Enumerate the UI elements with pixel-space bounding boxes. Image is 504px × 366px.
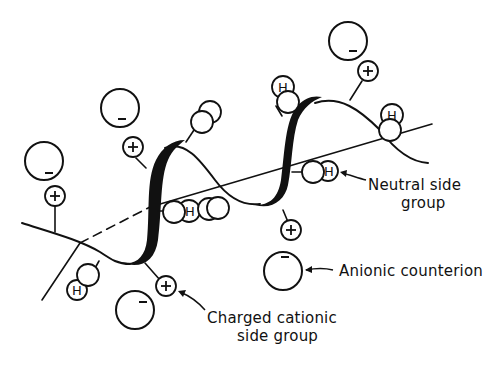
anion-1 (25, 142, 63, 180)
neutral-7: H (302, 161, 338, 183)
cationic-label-line1: Charged cationic (207, 309, 337, 327)
neutral-4: H (379, 104, 403, 141)
anion-4 (116, 291, 154, 329)
neutral-6 (198, 197, 229, 220)
svg-text:H: H (185, 204, 195, 219)
svg-text:H: H (72, 283, 82, 298)
anion-5 (264, 252, 302, 290)
anionic-label-line1: Anionic counterion (339, 262, 483, 280)
cation-2 (123, 137, 143, 157)
cation-5 (281, 220, 301, 240)
cation-3 (358, 61, 378, 81)
svg-text:H: H (278, 80, 288, 95)
neutral-5: H (163, 200, 200, 223)
neutral-label-line2: group (368, 194, 461, 212)
cation-4 (156, 276, 176, 296)
anion-3 (329, 22, 367, 60)
anionic-counterion-label: Anionic counterion (339, 262, 483, 280)
cation-1 (45, 186, 65, 206)
neutral-side-group-label: Neutral side group (368, 176, 461, 212)
neutral-1: H (67, 264, 99, 300)
svg-text:H: H (387, 108, 397, 123)
neutral-2 (191, 101, 221, 133)
cationic-label-line2: side group (207, 327, 337, 345)
cationic-side-group-label: Charged cationic side group (207, 309, 337, 345)
svg-text:H: H (324, 164, 334, 179)
anion-2 (101, 89, 139, 127)
neutral-label-line1: Neutral side (368, 176, 461, 194)
